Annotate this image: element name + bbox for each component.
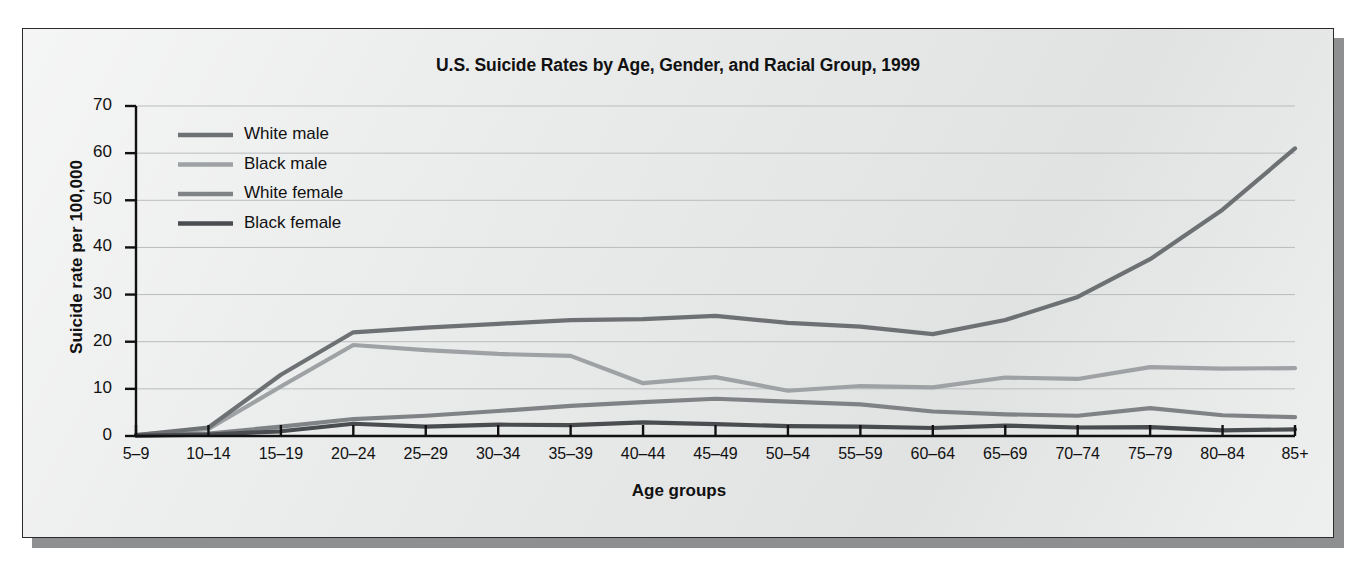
legend-label: Black female (244, 213, 341, 233)
legend-label: White male (244, 124, 329, 144)
x-tick-label: 85+ (1250, 445, 1340, 463)
plot-area: 010203040506070 5–910–1415–1920–2425–293… (23, 29, 1335, 539)
x-axis-label: Age groups (23, 481, 1335, 501)
y-tick-label: 0 (64, 425, 112, 445)
chart-figure: U.S. Suicide Rates by Age, Gender, and R… (22, 28, 1334, 538)
screenshot-root: U.S. Suicide Rates by Age, Gender, and R… (0, 0, 1372, 566)
y-axis-label: Suicide rate per 100,000 (67, 107, 87, 407)
legend-label: Black male (244, 154, 327, 174)
legend-label: White female (244, 183, 343, 203)
